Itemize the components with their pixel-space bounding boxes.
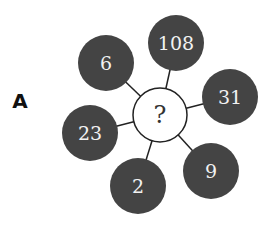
outer-number: 23 bbox=[78, 122, 102, 144]
center-circle: ? bbox=[133, 88, 187, 142]
number-wheel-diagram: 1086312392 ? A bbox=[0, 0, 273, 228]
outer-circle: 9 bbox=[183, 143, 239, 199]
outer-circle: 23 bbox=[62, 105, 118, 161]
outer-number: 9 bbox=[205, 160, 217, 182]
question-mark: ? bbox=[154, 101, 167, 129]
outer-number: 108 bbox=[158, 32, 194, 54]
puzzle-label: A bbox=[12, 89, 28, 113]
outer-number: 31 bbox=[218, 86, 242, 108]
outer-number: 2 bbox=[132, 175, 144, 197]
outer-circle: 31 bbox=[202, 69, 258, 125]
outer-circle: 6 bbox=[78, 35, 134, 91]
outer-circle: 2 bbox=[110, 158, 166, 214]
outer-number: 6 bbox=[100, 52, 112, 74]
outer-circle: 108 bbox=[148, 15, 204, 71]
